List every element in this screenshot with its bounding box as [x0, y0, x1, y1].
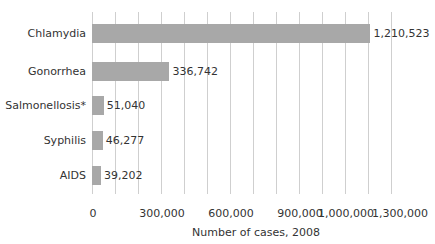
value-label-aids: 39,202 — [104, 166, 143, 185]
x-tick-1300000: 1,300,000 — [372, 207, 428, 220]
x-tick-0: 0 — [90, 207, 97, 220]
value-label-salmonellosis: 51,040 — [107, 96, 146, 115]
bar-syphilis — [92, 131, 103, 150]
horizontal-bar-chart: Chlamydia Gonorrhea Salmonellosis* Syphi… — [0, 0, 435, 244]
x-tick-300000: 300,000 — [139, 207, 185, 220]
value-label-gonorrhea: 336,742 — [172, 62, 218, 81]
category-label-gonorrhea: Gonorrhea — [28, 62, 86, 81]
category-label-syphilis: Syphilis — [44, 131, 86, 150]
category-label-aids: AIDS — [60, 166, 86, 185]
bar-gonorrhea — [92, 62, 169, 81]
x-tick-900000: 900,000 — [277, 207, 323, 220]
value-label-chlamydia: 1,210,523 — [373, 24, 429, 43]
category-label-chlamydia: Chlamydia — [28, 24, 86, 43]
x-tick-1000000: 1,000,000 — [318, 207, 374, 220]
category-label-salmonellosis: Salmonellosis* — [5, 96, 86, 115]
value-label-syphilis: 46,277 — [106, 131, 145, 150]
bar-chlamydia — [92, 24, 370, 43]
bar-salmonellosis — [92, 96, 104, 115]
x-axis-title: Number of cases, 2008 — [192, 226, 320, 239]
x-tick-600000: 600,000 — [208, 207, 254, 220]
bar-aids — [92, 166, 101, 185]
